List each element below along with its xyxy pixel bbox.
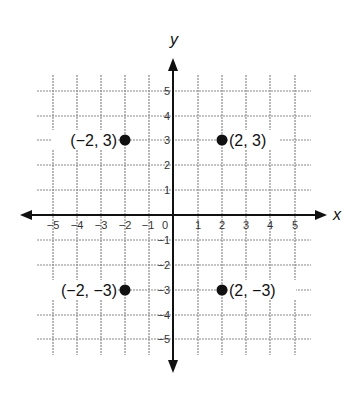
y-axis-up-arrow-icon bbox=[168, 58, 178, 71]
point-label-2-neg3: (2, −3) bbox=[229, 282, 276, 299]
svg-text:−3: −3 bbox=[95, 219, 108, 231]
point-label-2-3: (2, 3) bbox=[229, 132, 266, 149]
x-axis-label: x bbox=[332, 206, 342, 223]
svg-text:−5: −5 bbox=[157, 333, 170, 345]
coordinate-plane: x y −5 −4 −3 −2 −1 0 1 2 3 4 5 5 4 3 2 1… bbox=[0, 0, 355, 397]
svg-text:−2: −2 bbox=[157, 259, 170, 271]
point-2-neg3 bbox=[217, 285, 228, 296]
x-axis-right-arrow-icon bbox=[315, 210, 327, 220]
svg-text:−4: −4 bbox=[157, 309, 170, 321]
point-label-neg2-neg3: (−2, −3) bbox=[61, 282, 117, 299]
svg-text:−1: −1 bbox=[142, 219, 155, 231]
svg-text:−3: −3 bbox=[157, 284, 170, 296]
svg-text:4: 4 bbox=[267, 219, 273, 231]
svg-text:−4: −4 bbox=[71, 219, 84, 231]
svg-text:4: 4 bbox=[164, 110, 170, 122]
x-axis-left-arrow-icon bbox=[20, 210, 32, 220]
svg-text:2: 2 bbox=[164, 159, 170, 171]
svg-text:1: 1 bbox=[164, 184, 170, 196]
point-2-3 bbox=[217, 135, 228, 146]
svg-text:1: 1 bbox=[195, 219, 201, 231]
svg-text:5: 5 bbox=[164, 85, 170, 97]
point-neg2-neg3 bbox=[120, 285, 131, 296]
svg-text:5: 5 bbox=[292, 219, 298, 231]
point-neg2-3 bbox=[120, 135, 131, 146]
y-axis-label: y bbox=[169, 31, 179, 48]
point-label-neg2-3: (−2, 3) bbox=[70, 132, 117, 149]
svg-text:2: 2 bbox=[219, 219, 225, 231]
svg-text:−2: −2 bbox=[119, 219, 132, 231]
svg-text:3: 3 bbox=[243, 219, 249, 231]
y-axis-down-arrow-icon bbox=[168, 360, 178, 373]
origin-label: 0 bbox=[162, 219, 168, 231]
svg-text:3: 3 bbox=[164, 134, 170, 146]
svg-text:−5: −5 bbox=[47, 219, 60, 231]
svg-text:−1: −1 bbox=[157, 234, 170, 246]
